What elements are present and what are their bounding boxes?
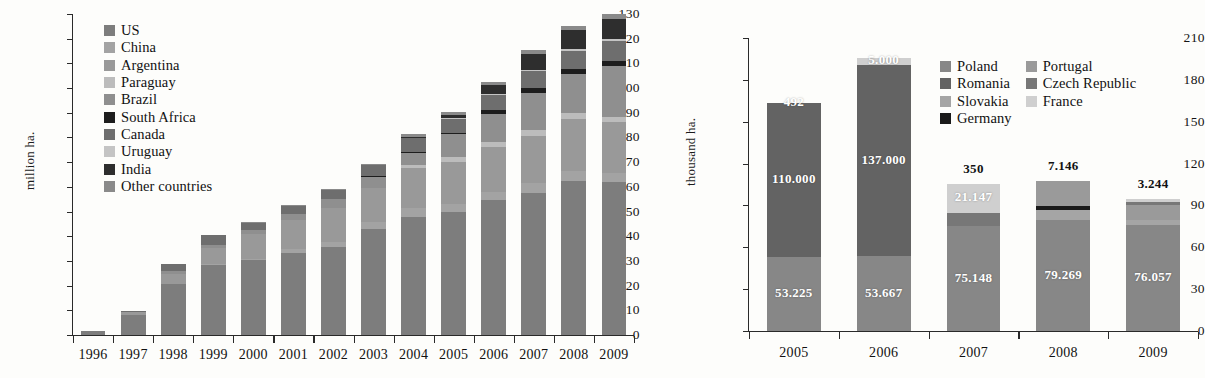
left-bar-chart: million ha. 0102030405060708090100110120… — [0, 0, 640, 378]
legend-label: South Africa — [121, 109, 196, 126]
bar-segment — [561, 30, 586, 49]
legend-label: Portugal — [1043, 58, 1093, 75]
legend-label: France — [1043, 93, 1083, 110]
bar-segment — [121, 315, 146, 335]
x-tick-label: 1997 — [118, 347, 147, 363]
bar-segment — [1126, 205, 1180, 220]
x-tick-label: 1998 — [159, 347, 188, 363]
left-legend-item: Brazil — [104, 91, 212, 108]
left-legend-item: US — [104, 22, 212, 39]
bar-segment — [201, 235, 226, 245]
right-legend-item: Slovakia — [940, 93, 1012, 110]
x-tick-label: 2008 — [559, 347, 588, 363]
bar-segment — [401, 217, 426, 335]
right-legend-item: Romania — [940, 75, 1012, 92]
left-legend-item: India — [104, 160, 212, 177]
x-tick-label: 1999 — [199, 347, 228, 363]
bar-segment — [521, 183, 546, 192]
legend-label: Romania — [957, 75, 1010, 92]
bar-segment — [561, 113, 586, 120]
bar-segment — [201, 265, 226, 335]
bar-segment — [241, 223, 266, 230]
legend-swatch — [104, 42, 115, 53]
legend-swatch — [1026, 61, 1037, 72]
legend-label: Uruguay — [121, 143, 172, 160]
bar-segment — [481, 95, 506, 110]
x-tick-mark — [514, 336, 515, 343]
bar-segment — [602, 182, 627, 335]
x-tick-mark — [354, 336, 355, 343]
x-tick-mark — [929, 332, 930, 339]
bar-segment — [161, 264, 186, 271]
bar-value-label: 5.000 — [868, 52, 899, 68]
x-tick-mark — [554, 336, 555, 343]
right-legend: PolandRomaniaSlovakiaGermanyPortugalCzec… — [940, 58, 1136, 127]
left-legend-item: Canada — [104, 126, 212, 143]
left-legend-item: Uruguay — [104, 143, 212, 160]
x-tick-mark — [73, 336, 74, 343]
bar-segment — [401, 168, 426, 208]
x-tick-label: 2000 — [239, 347, 268, 363]
stacked-bar — [521, 14, 546, 335]
bar-segment — [401, 153, 426, 165]
legend-swatch — [1026, 78, 1037, 89]
stacked-bar — [321, 14, 346, 335]
bar-segment — [441, 204, 466, 212]
legend-swatch — [104, 77, 115, 88]
bar-value-label: 53.667 — [865, 285, 903, 301]
bar-segment — [321, 208, 346, 241]
x-tick-mark — [634, 336, 635, 343]
x-tick-mark — [153, 336, 154, 343]
bar-segment — [602, 122, 627, 173]
left-legend-item: China — [104, 39, 212, 56]
bar-segment — [521, 54, 546, 69]
right-bar-chart: thousand ha. 0306090120150180210 110.000… — [660, 0, 1205, 378]
legend-label: Germany — [957, 110, 1012, 127]
bar-segment — [361, 188, 386, 222]
stacked-bar — [361, 14, 386, 335]
stacked-bar — [401, 14, 426, 335]
legend-label: Brazil — [121, 91, 157, 108]
bar-segment — [361, 222, 386, 229]
bar-value-label: 137.000 — [862, 152, 906, 168]
bar-value-label: 3.244 — [1138, 176, 1169, 192]
x-tick-label: 1996 — [78, 347, 107, 363]
legend-swatch — [940, 78, 951, 89]
bar-segment — [561, 171, 586, 180]
left-legend-item: Other countries — [104, 178, 212, 195]
bar-segment — [401, 138, 426, 151]
bar-segment — [602, 66, 627, 117]
bar-segment — [441, 162, 466, 204]
right-legend-item: Portugal — [1026, 58, 1137, 75]
legend-swatch — [104, 112, 115, 123]
right-legend-item: Germany — [940, 110, 1012, 127]
right-legend-item: Czech Republic — [1026, 75, 1137, 92]
x-tick-label: 2008 — [1049, 345, 1078, 361]
legend-swatch — [940, 96, 951, 107]
x-tick-mark — [1108, 332, 1109, 339]
legend-label: Canada — [121, 126, 165, 143]
x-tick-mark — [394, 336, 395, 343]
x-tick-mark — [113, 336, 114, 343]
legend-label: China — [121, 39, 156, 56]
right-y-axis-label: thousand ha. — [683, 36, 699, 186]
legend-swatch — [104, 181, 115, 192]
bar-value-label: 79.269 — [1045, 267, 1083, 283]
x-tick-label: 2006 — [869, 345, 898, 361]
bar-value-label: 110.000 — [772, 171, 816, 187]
bar-value-label: 7.146 — [1048, 158, 1079, 174]
x-tick-label: 2005 — [779, 345, 808, 361]
bar-segment — [521, 193, 546, 335]
x-tick-mark — [474, 336, 475, 343]
bar-segment — [481, 85, 506, 94]
legend-label: Czech Republic — [1043, 75, 1137, 92]
bar-segment — [161, 284, 186, 335]
x-tick-mark — [313, 336, 314, 343]
bar-segment — [1036, 181, 1090, 206]
bar-value-label: 53.225 — [775, 285, 813, 301]
right-legend-column-2: PortugalCzech RepublicFrance — [1026, 58, 1137, 127]
left-legend-item: Paraguay — [104, 74, 212, 91]
x-tick-label: 2002 — [319, 347, 348, 363]
x-tick-label: 2001 — [279, 347, 308, 363]
bar-value-label: 21.147 — [955, 189, 993, 205]
